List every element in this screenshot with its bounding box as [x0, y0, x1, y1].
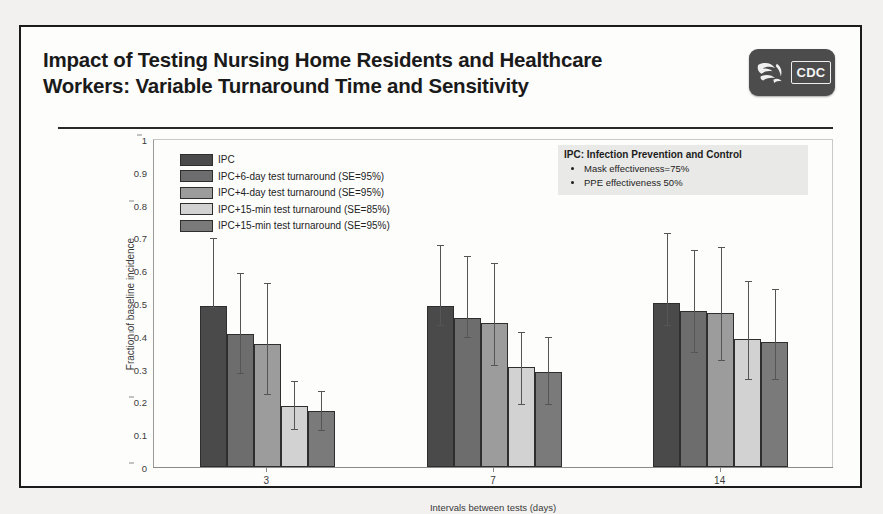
- error-bar: [294, 381, 295, 429]
- error-bar-cap: [437, 245, 444, 246]
- error-bar: [548, 337, 549, 404]
- chart: Fraction of baseline incidence 00.10.20.…: [58, 131, 848, 476]
- x-tick-mark: [266, 467, 267, 472]
- x-tick-label: 3: [264, 475, 270, 486]
- x-axis-label: Intervals between tests (days): [153, 502, 833, 513]
- error-bar-cap: [518, 404, 525, 405]
- legend-swatch: [180, 154, 213, 166]
- error-bar-cap: [318, 391, 325, 392]
- error-bar-cap: [545, 337, 552, 338]
- legend-label: IPC+15-min test turnaround (SE=95%): [218, 220, 390, 231]
- error-bar: [467, 256, 468, 336]
- y-tick-mark: [129, 200, 134, 201]
- error-bar-cap: [664, 233, 671, 234]
- y-tick-label: 0.1: [134, 430, 154, 441]
- error-bar-cap: [210, 238, 217, 239]
- bar: [653, 303, 680, 467]
- y-tick-label: 0.5: [134, 299, 154, 310]
- error-bar-cap: [772, 289, 779, 290]
- y-tick-label: 0.6: [134, 266, 154, 277]
- legend-item: IPC+15-min test turnaround (SE=85%): [180, 203, 390, 216]
- error-bar-cap: [291, 429, 298, 430]
- legend-label: IPC+6-day test turnaround (SE=95%): [218, 171, 384, 182]
- title-block: Impact of Testing Nursing Home Residents…: [43, 47, 683, 99]
- y-tick-label: 0.7: [134, 233, 154, 244]
- error-bar-cap: [210, 307, 217, 308]
- legend-item: IPC: [180, 153, 390, 166]
- error-bar-cap: [745, 379, 752, 380]
- legend-swatch: [180, 220, 213, 232]
- legend-item: IPC+15-min test turnaround (SE=95%): [180, 219, 390, 232]
- error-bar-cap: [772, 379, 779, 380]
- x-tick-mark: [720, 467, 721, 472]
- annotation-bullets: Mask effectiveness=75%PPE effectiveness …: [564, 162, 802, 190]
- y-tick-mark: [129, 331, 134, 332]
- y-tick-mark: [129, 397, 134, 398]
- error-bar-cap: [518, 332, 525, 333]
- error-bar: [240, 273, 241, 373]
- error-bar: [267, 283, 268, 395]
- error-bar: [694, 250, 695, 352]
- error-bar-cap: [264, 283, 271, 284]
- y-tick-mark: [129, 463, 134, 464]
- slide-frame: Impact of Testing Nursing Home Residents…: [19, 25, 862, 488]
- error-bar: [775, 289, 776, 379]
- error-bar-cap: [718, 360, 725, 361]
- error-bar-cap: [437, 325, 444, 326]
- error-bar: [721, 247, 722, 360]
- error-bar-cap: [691, 352, 698, 353]
- y-tick-label: 0: [142, 463, 154, 474]
- error-bar: [440, 245, 441, 325]
- error-bar: [667, 233, 668, 325]
- error-bar-cap: [237, 273, 244, 274]
- error-bar-cap: [664, 325, 671, 326]
- error-bar-cap: [491, 365, 498, 366]
- chart-legend: IPCIPC+6-day test turnaround (SE=95%)IPC…: [180, 153, 390, 236]
- annotation-bullet: Mask effectiveness=75%: [584, 162, 802, 176]
- cdc-wordmark: CDC: [791, 61, 830, 84]
- error-bar-cap: [291, 381, 298, 382]
- page-title: Impact of Testing Nursing Home Residents…: [43, 47, 683, 99]
- y-tick-label: 0.2: [134, 397, 154, 408]
- error-bar: [521, 332, 522, 404]
- error-bar: [494, 263, 495, 365]
- error-bar-cap: [691, 250, 698, 251]
- legend-item: IPC+6-day test turnaround (SE=95%): [180, 170, 390, 183]
- legend-swatch: [180, 170, 213, 182]
- bar: [454, 318, 481, 467]
- error-bar-cap: [718, 247, 725, 248]
- error-bar-cap: [264, 394, 271, 395]
- error-bar-cap: [491, 263, 498, 264]
- y-tick-label: 0.9: [134, 167, 154, 178]
- y-tick-label: 1: [142, 135, 154, 146]
- bar: [200, 306, 227, 467]
- error-bar-cap: [745, 281, 752, 282]
- y-tick-mark: [129, 266, 134, 267]
- legend-label: IPC+4-day test turnaround (SE=95%): [218, 187, 384, 198]
- x-tick-label: 7: [490, 475, 496, 486]
- legend-label: IPC+15-min test turnaround (SE=85%): [218, 204, 390, 215]
- error-bar-cap: [464, 337, 471, 338]
- bar: [427, 306, 454, 467]
- y-tick-label: 0.4: [134, 331, 154, 342]
- x-tick-mark: [493, 467, 494, 472]
- legend-swatch: [180, 187, 213, 199]
- error-bar: [321, 391, 322, 430]
- y-tick-label: 0.8: [134, 200, 154, 211]
- y-tick-label: 0.3: [134, 364, 154, 375]
- y-tick-mark: [137, 135, 142, 136]
- legend-label: IPC: [218, 154, 235, 165]
- annotation-title: IPC: Infection Prevention and Control: [564, 149, 802, 160]
- annotation-box: IPC: Infection Prevention and Control Ma…: [558, 145, 808, 195]
- annotation-bullet: PPE effectiveness 50%: [584, 176, 802, 190]
- error-bar-cap: [318, 430, 325, 431]
- x-tick-label: 14: [714, 475, 725, 486]
- title-divider: [58, 127, 833, 129]
- legend-swatch: [180, 203, 213, 215]
- error-bar-cap: [464, 256, 471, 257]
- hhs-eagle-icon: [753, 58, 787, 88]
- cdc-logo: CDC: [749, 49, 835, 96]
- error-bar-cap: [545, 404, 552, 405]
- error-bar-cap: [237, 373, 244, 374]
- legend-item: IPC+4-day test turnaround (SE=95%): [180, 186, 390, 199]
